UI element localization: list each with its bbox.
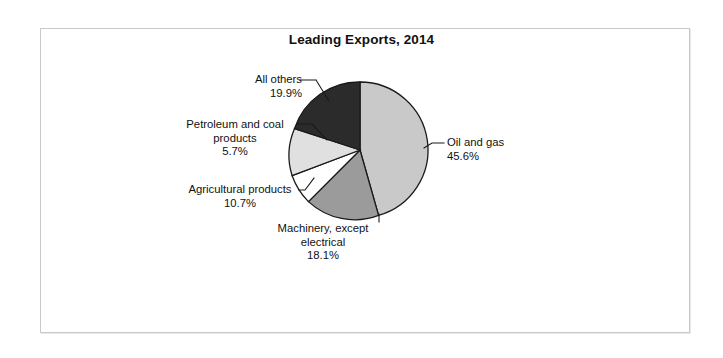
pie-label-oil-and-gas: Oil and gas 45.6% (447, 136, 557, 163)
pie-label-all-others: All others 19.9% (230, 73, 302, 100)
pie-label-machinery-except-electrical: Machinery, except electrical 18.1% (258, 222, 388, 263)
chart-figure: Leading Exports, 2014 All others 19.9% P… (0, 0, 723, 358)
pie-label-petroleum-and-coal-products: Petroleum and coal products 5.7% (172, 118, 298, 159)
pie-label-agricultural-products: Agricultural products 10.7% (180, 183, 300, 210)
pie-chart (0, 0, 723, 358)
